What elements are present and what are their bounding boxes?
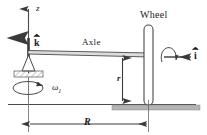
wheel-label: Wheel xyxy=(140,10,168,20)
k-hat-glyph: k xyxy=(34,38,40,48)
axle-label: Axle xyxy=(82,38,101,47)
i-hat-glyph: i xyxy=(194,51,197,61)
k-hat-label: k xyxy=(34,38,40,48)
ground-strip xyxy=(112,105,200,110)
r-dimension-label: r xyxy=(117,74,121,83)
z-axis-label: z xyxy=(36,4,40,13)
omega-label: ω1 xyxy=(52,83,61,94)
wheel-body xyxy=(144,25,153,105)
axle-bar xyxy=(28,51,150,58)
omega-subscript: 1 xyxy=(58,88,61,94)
diagram-canvas xyxy=(0,0,207,135)
omega-rotation-ellipse xyxy=(13,82,43,95)
pivot-triangle xyxy=(22,55,35,71)
figure-root: z k Axle Wheel i r R ω1 xyxy=(0,0,207,135)
spin-arc-arrow xyxy=(161,48,176,62)
pivot-base xyxy=(14,71,43,77)
i-hat-label: i xyxy=(194,51,197,61)
R-dimension-label: R xyxy=(84,117,91,127)
